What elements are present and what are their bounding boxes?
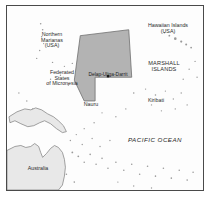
island-dot [26, 100, 27, 101]
island-dot [161, 110, 162, 111]
island-dot [196, 77, 197, 78]
capital-marker-layer [107, 75, 109, 77]
island-dot [190, 47, 192, 49]
island-dot [186, 179, 188, 181]
map-canvas [7, 6, 203, 190]
island-dot [151, 104, 152, 105]
island-dot [188, 69, 189, 70]
island-dot [52, 62, 53, 63]
island-dot [168, 35, 170, 37]
island-dot [180, 41, 182, 43]
island-dot [71, 152, 73, 154]
island-dot [66, 173, 68, 175]
island-dot [178, 169, 180, 171]
island-dot [174, 37, 177, 40]
island-dot [173, 98, 174, 99]
island-dot [164, 32, 166, 34]
landmass-new-guinea [9, 108, 66, 133]
island-dot [93, 122, 94, 123]
map-frame: Northern Marianas (USA)Hawaiian Islands … [6, 5, 204, 191]
delap-uliga-darrit-marker[interactable] [107, 75, 109, 77]
island-dot [139, 173, 141, 175]
island-dot [155, 94, 157, 96]
island-dot [107, 167, 109, 169]
island-dot [163, 167, 165, 169]
island-dot [175, 108, 176, 109]
island-dot [89, 154, 91, 156]
island-dot [50, 79, 51, 80]
island-dot [117, 181, 118, 182]
island-dot [77, 155, 79, 157]
island-dot [181, 92, 182, 93]
island-dot [42, 29, 44, 31]
highlight-region-layer [74, 30, 131, 101]
island-dot [41, 36, 43, 38]
island-dot [133, 92, 135, 94]
island-dot [145, 88, 146, 89]
island-dot [95, 163, 97, 165]
island-dot [76, 134, 77, 135]
island-dot [185, 44, 187, 46]
island-dot [186, 104, 187, 105]
island-dot [155, 175, 157, 177]
island-dot [147, 165, 149, 167]
island-dot [115, 162, 117, 164]
marshall-islands-territory-highlight[interactable] [74, 30, 131, 101]
island-dot [123, 169, 125, 171]
island-dot [151, 187, 152, 188]
island-dot [99, 146, 100, 147]
island-dot [39, 50, 40, 51]
island-dot [83, 162, 85, 164]
landmass-australia [7, 144, 65, 190]
island-dot [72, 63, 73, 64]
island-dot [82, 144, 83, 145]
island-dot [194, 61, 195, 62]
island-dot [101, 158, 103, 160]
island-dot [40, 23, 42, 25]
island-dot [192, 171, 194, 173]
island-dot [109, 140, 110, 141]
island-dot [36, 58, 37, 59]
island-dot [43, 43, 44, 44]
island-dot [183, 79, 184, 80]
landmass-layer [7, 108, 66, 190]
island-dot [64, 66, 65, 67]
island-dot [91, 138, 92, 139]
island-dot [131, 163, 133, 165]
island-dot [171, 177, 173, 179]
locator-map: Northern Marianas (USA)Hawaiian Islands … [0, 0, 210, 197]
island-dot [74, 181, 76, 183]
island-dot [101, 112, 102, 113]
island-dot [70, 140, 71, 141]
island-dot [125, 108, 126, 109]
island-dot [84, 128, 85, 129]
island-dot [115, 116, 116, 117]
island-dot [68, 84, 69, 85]
island-dot [133, 185, 134, 186]
island-dot [165, 90, 166, 91]
island-dot [60, 75, 61, 76]
island-dot [18, 92, 19, 93]
